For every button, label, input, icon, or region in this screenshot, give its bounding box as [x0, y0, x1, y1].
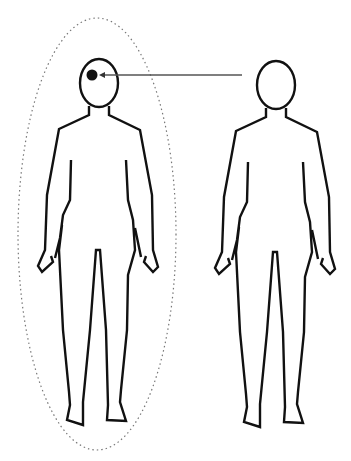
diagram-svg: [0, 0, 351, 461]
arrow: [99, 72, 242, 78]
head-dot-marker: [87, 70, 98, 81]
diagram-canvas: Two human figure outlines; an arrow poin…: [0, 0, 351, 461]
right-figure: [215, 61, 335, 427]
arrowhead-icon: [99, 72, 105, 78]
left-figure: [38, 59, 158, 425]
